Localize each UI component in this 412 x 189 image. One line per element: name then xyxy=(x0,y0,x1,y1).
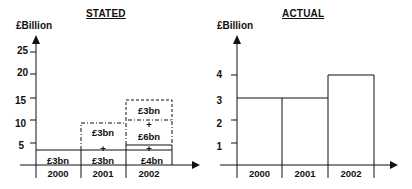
stated-2002-additional-bar-1 xyxy=(126,120,172,145)
stated-2001-additional-bar xyxy=(81,123,126,150)
actual-y-axis-arrow-icon xyxy=(233,35,241,44)
stated-x-axis-arrow-icon xyxy=(192,161,200,169)
charts-graphics xyxy=(0,0,412,189)
stated-y-axis-arrow-icon xyxy=(32,35,40,44)
actual-x-axis-arrow-icon xyxy=(390,161,398,169)
stated-2002-additional-bar-2 xyxy=(126,100,172,120)
